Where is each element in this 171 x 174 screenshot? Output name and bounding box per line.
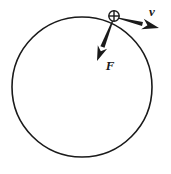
physics-diagram: v F <box>0 0 171 174</box>
velocity-arrowhead-icon <box>141 19 159 30</box>
force-vector <box>97 20 114 61</box>
velocity-vector-shaft <box>118 17 143 25</box>
circular-path <box>12 17 152 157</box>
velocity-vector <box>118 17 159 29</box>
diagram-canvas: v F <box>0 0 171 174</box>
force-label: F <box>105 58 115 73</box>
force-vector-shaft <box>100 20 113 48</box>
particle-marker <box>109 11 119 21</box>
velocity-label: v <box>149 4 155 19</box>
